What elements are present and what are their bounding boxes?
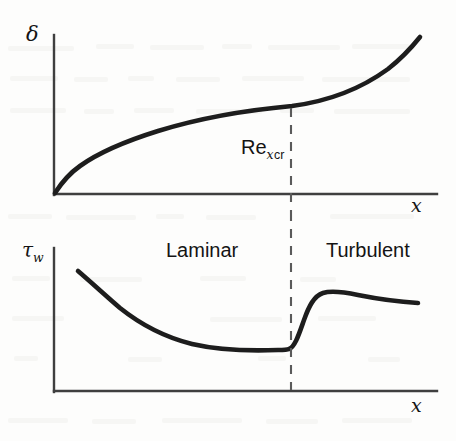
wall-shear-stress-curve: [78, 271, 418, 350]
re-subscript-x: x: [267, 147, 274, 162]
re-subscript-cr: cr: [274, 148, 285, 162]
region-label-turbulent: Turbulent: [326, 240, 410, 260]
y-axis-label-tau-w: τw: [22, 240, 44, 265]
tau-subscript-w: w: [33, 250, 44, 265]
top-panel-axes: [54, 35, 437, 195]
figure-canvas: [0, 0, 456, 441]
re-text: Re: [241, 136, 267, 158]
y-axis-label-delta: δ: [26, 24, 39, 45]
region-label-laminar: Laminar: [166, 240, 238, 260]
boundary-layer-figure: δ τw x x Rexcr Laminar Turbulent: [0, 0, 456, 441]
critical-reynolds-label: Rexcr: [241, 137, 285, 162]
x-axis-label-bottom: x: [411, 396, 422, 415]
scan-artifact-texture: [8, 44, 414, 424]
boundary-layer-thickness-curve: [55, 37, 420, 193]
tau-glyph: τ: [22, 238, 33, 262]
x-axis-label-top: x: [411, 196, 422, 215]
